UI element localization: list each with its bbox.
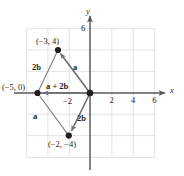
- point-label-neg5-0: (−5, 0): [2, 83, 25, 92]
- x-tick-6: 6: [152, 96, 156, 105]
- vector-label-2b-lower: 2b: [77, 114, 86, 123]
- vector-label-a-upper: a: [73, 63, 77, 72]
- vector-diagram-figure: x y 2 4 6 −2 6 (−3, 4) (−5, 0) (−2, −4) …: [0, 0, 184, 176]
- vector-label-2b-upper: 2b: [32, 63, 41, 72]
- vector-2b-lower-line: [72, 93, 91, 131]
- coordinate-plane-svg: [0, 0, 184, 176]
- point-label-neg3-4: (−3, 4): [36, 37, 59, 46]
- y-axis-label: y: [86, 7, 90, 16]
- y-tick-6: 6: [81, 24, 85, 33]
- x-tick-neg2: −2: [63, 97, 72, 106]
- dot-origin: [87, 90, 94, 97]
- dot-neg5-0: [34, 90, 40, 96]
- vector-label-a-lower: a: [33, 112, 37, 121]
- x-tick-4: 4: [131, 96, 135, 105]
- dot-neg2-neg4: [66, 133, 72, 139]
- vector-label-a-plus-2b: a + 2b: [46, 82, 68, 91]
- x-axis-label: x: [170, 86, 174, 95]
- point-label-neg2-neg4: (−2, −4): [48, 140, 76, 149]
- dot-neg3-4: [55, 47, 61, 53]
- x-tick-2: 2: [110, 96, 114, 105]
